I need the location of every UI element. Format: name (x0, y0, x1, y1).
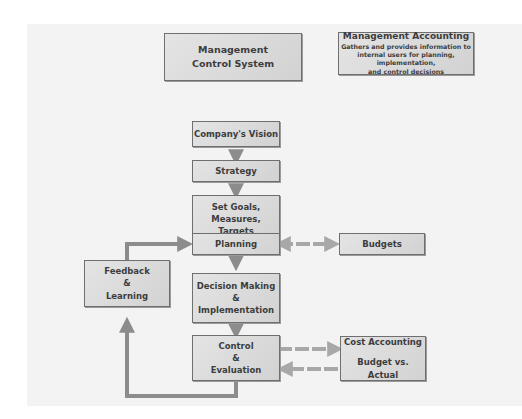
mcs-line-1: Management (198, 43, 268, 57)
budgets-label: Budgets (362, 238, 402, 250)
cost-accounting-box: Cost Accounting Budget vs. Actual (340, 336, 426, 381)
planning-box: Planning (192, 233, 280, 255)
control-line-3: Evaluation (211, 364, 262, 376)
management-control-system-box: Management Control System (164, 33, 302, 81)
planning-label: Planning (215, 238, 257, 250)
decision-making-box: Decision Making & Implementation (192, 273, 280, 323)
ma-title: Management Accounting (343, 31, 469, 43)
companys-vision-box: Company's Vision (192, 121, 280, 147)
ma-line-1: Gathers and provides information to (341, 43, 471, 51)
strategy-label: Strategy (215, 165, 257, 177)
feedback-line-3: Learning (106, 290, 148, 302)
mcs-line-2: Control System (192, 57, 274, 71)
feedback-line-1: Feedback (104, 265, 150, 277)
control-evaluation-box: Control & Evaluation (192, 335, 280, 381)
strategy-box: Strategy (192, 160, 280, 182)
ma-line-2: internal users for planning, implementat… (341, 51, 471, 67)
goals-line-2: Measures, (211, 213, 260, 225)
feedback-line-2: & (123, 277, 130, 289)
budgets-box: Budgets (339, 233, 425, 255)
decision-line-2: & (232, 292, 239, 304)
control-line-1: Control (218, 340, 253, 352)
vision-label: Company's Vision (194, 128, 278, 140)
management-accounting-box: Management Accounting Gathers and provid… (338, 32, 474, 75)
feedback-learning-box: Feedback & Learning (84, 260, 170, 307)
ma-line-3: and control decisions (368, 68, 444, 76)
cost-accounting-label: Cost Accounting (344, 336, 422, 348)
decision-line-3: Implementation (198, 304, 274, 316)
control-line-2: & (232, 352, 239, 364)
decision-line-1: Decision Making (197, 280, 276, 292)
budget-vs-actual-label: Budget vs. Actual (341, 356, 425, 381)
goals-line-1: Set Goals, (212, 201, 261, 213)
